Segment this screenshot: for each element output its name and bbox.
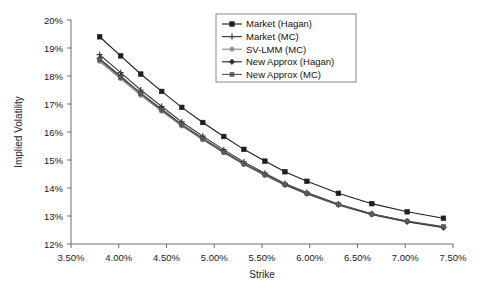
- series-new-approx-mc: [98, 58, 446, 229]
- legend-label: SV-LMM (MC): [246, 44, 306, 55]
- y-tick-label: 15%: [44, 155, 64, 166]
- data-marker: [441, 225, 445, 229]
- x-tick-label: 4.50%: [153, 252, 180, 263]
- data-marker: [263, 159, 268, 164]
- y-tick-label: 20%: [44, 15, 64, 26]
- x-tick-label: 5.00%: [201, 252, 228, 263]
- legend-label: Market (Hagan): [246, 18, 312, 29]
- x-tick-label: 4.00%: [105, 252, 132, 263]
- x-tick-label: 6.00%: [296, 252, 323, 263]
- data-marker: [159, 89, 164, 94]
- data-marker: [336, 203, 340, 207]
- series-sv-lmm-mc: [98, 59, 446, 230]
- series-line: [100, 59, 444, 228]
- chart-figure: 12%13%14%15%16%17%18%19%20%3.50%4.00%4.5…: [0, 0, 488, 289]
- x-tick-label: 7.50%: [440, 252, 467, 263]
- data-marker: [97, 35, 102, 40]
- data-marker: [336, 191, 341, 196]
- data-marker: [405, 210, 410, 215]
- data-marker: [222, 150, 226, 154]
- data-marker: [305, 191, 309, 195]
- y-tick-label: 19%: [44, 43, 64, 54]
- series-line: [100, 60, 444, 227]
- x-tick-label: 6.50%: [344, 252, 371, 263]
- y-tick-label: 18%: [44, 71, 64, 82]
- x-axis: 3.50%4.00%4.50%5.00%5.50%6.00%6.50%7.00%…: [58, 244, 467, 263]
- data-marker: [283, 169, 288, 174]
- data-marker: [179, 105, 184, 110]
- x-tick-label: 7.00%: [392, 252, 419, 263]
- data-marker: [200, 120, 205, 125]
- y-axis: 12%13%14%15%16%17%18%19%20%: [44, 15, 71, 250]
- legend-label: Market (MC): [246, 31, 299, 42]
- y-tick-label: 13%: [44, 211, 64, 222]
- implied-volatility-line-chart: 12%13%14%15%16%17%18%19%20%3.50%4.00%4.5…: [0, 0, 488, 289]
- y-axis-title: Implied Volatility: [13, 96, 24, 168]
- data-marker: [405, 219, 409, 223]
- data-marker: [370, 201, 375, 206]
- data-marker: [441, 216, 446, 221]
- data-marker: [230, 22, 235, 27]
- data-marker: [222, 134, 227, 139]
- data-marker: [98, 58, 102, 62]
- data-marker: [201, 137, 205, 141]
- chart-legend: Market (Hagan)Market (MC)SV-LMM (MC)New …: [216, 14, 356, 82]
- data-marker: [118, 54, 123, 59]
- series-line: [100, 61, 444, 227]
- data-marker: [230, 47, 234, 51]
- data-marker: [242, 162, 246, 166]
- y-tick-label: 16%: [44, 127, 64, 138]
- data-marker: [138, 72, 143, 77]
- data-marker: [242, 147, 247, 152]
- x-axis-title: Strike: [249, 269, 275, 280]
- y-tick-label: 14%: [44, 183, 64, 194]
- data-marker: [263, 173, 267, 177]
- legend-label: New Approx (MC): [246, 69, 321, 80]
- data-marker: [139, 92, 143, 96]
- data-marker: [180, 123, 184, 127]
- legend-label: New Approx (Hagan): [246, 56, 334, 67]
- data-marker: [160, 108, 164, 112]
- data-marker: [119, 75, 123, 79]
- data-marker: [305, 179, 310, 184]
- y-tick-label: 17%: [44, 99, 64, 110]
- data-marker: [370, 212, 374, 216]
- x-tick-label: 3.50%: [58, 252, 85, 263]
- data-marker: [230, 72, 234, 76]
- data-marker: [283, 183, 287, 187]
- y-tick-label: 12%: [44, 239, 64, 250]
- x-tick-label: 5.50%: [249, 252, 276, 263]
